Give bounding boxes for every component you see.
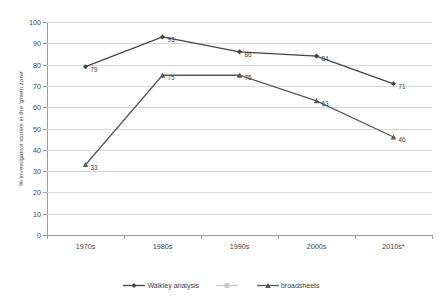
data-point-label: 63	[322, 99, 329, 106]
legend-item[interactable]	[216, 281, 240, 290]
x-axis-tick	[278, 235, 279, 239]
x-axis-tick-label: 1970s	[76, 242, 96, 251]
series-layer	[47, 22, 432, 235]
data-point-label: 86	[245, 50, 252, 57]
x-axis-tick-label: 1990s	[230, 242, 250, 251]
y-axis-tick-label: 70	[33, 81, 41, 90]
y-axis-tick-label: 60	[33, 103, 41, 112]
y-axis-tick-label: 50	[33, 124, 41, 133]
data-point-marker	[314, 53, 319, 58]
x-axis-tick-label: 2000s	[307, 242, 327, 251]
legend-label: broadsheets	[281, 282, 320, 289]
data-point-label: 71	[399, 82, 406, 89]
x-axis-tick	[47, 235, 48, 239]
data-point-label: 46	[399, 136, 406, 143]
data-point-label: 84	[322, 55, 329, 62]
plot-area: 0102030405060708090100 79938684713375756…	[47, 22, 432, 235]
x-axis-tick	[201, 235, 202, 239]
chart-legend: Walkley analysisbroadsheets	[0, 281, 443, 290]
legend-item[interactable]: Walkley analysis	[123, 281, 198, 290]
y-axis-tick-label: 10	[33, 209, 41, 218]
x-axis-tick-label: 2010s*	[382, 242, 404, 251]
data-point-label: 75	[245, 74, 252, 81]
x-axis-tick	[124, 235, 125, 239]
y-axis-tick-label: 20	[33, 188, 41, 197]
data-point-label: 75	[168, 74, 175, 81]
legend-marker-icon	[216, 281, 238, 290]
y-axis-tick-label: 80	[33, 60, 41, 69]
data-point-label: 93	[168, 35, 175, 42]
x-axis-tick	[355, 235, 356, 239]
data-point-marker	[132, 283, 137, 288]
data-point-label: 33	[91, 163, 98, 170]
data-point-marker	[225, 283, 230, 288]
y-axis-title: % investigative stories in the 'green zo…	[14, 2, 28, 254]
data-point-marker	[83, 64, 88, 69]
x-axis-line	[47, 235, 432, 236]
x-axis-tick-label: 1980s	[153, 242, 173, 251]
y-axis-tick-label: 0	[37, 231, 41, 240]
line-chart: % investigative stories in the 'green zo…	[0, 0, 443, 302]
y-axis-tick-label: 30	[33, 167, 41, 176]
legend-marker-icon	[257, 281, 279, 290]
data-point-marker	[391, 81, 396, 86]
y-axis-tick-label: 40	[33, 145, 41, 154]
legend-label: Walkley analysis	[147, 282, 198, 289]
data-point-marker	[160, 34, 165, 39]
x-axis-tick	[432, 235, 433, 239]
y-axis-tick-label: 100	[29, 18, 41, 27]
y-axis-tick-label: 90	[33, 39, 41, 48]
data-point-label: 79	[91, 65, 98, 72]
data-point-marker	[237, 49, 242, 54]
legend-item[interactable]: broadsheets	[257, 281, 320, 290]
series-line	[86, 75, 394, 164]
legend-marker-icon	[123, 281, 145, 290]
